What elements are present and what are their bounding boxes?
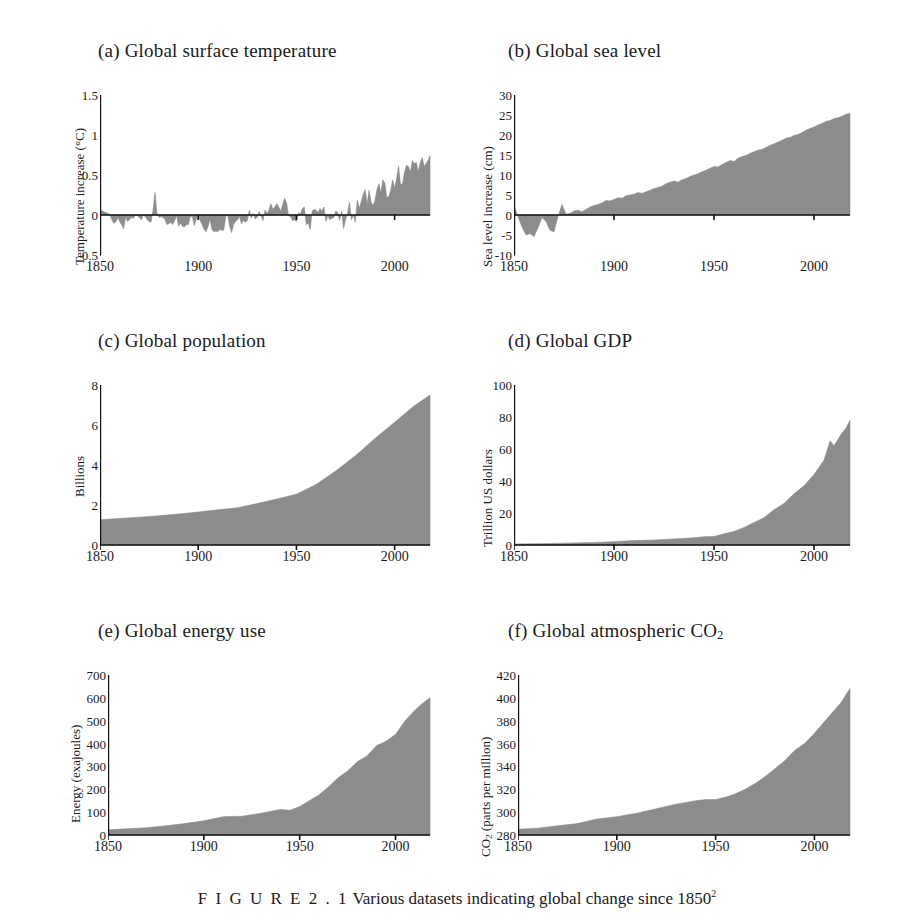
panel-f-xtick-label: 1850 — [504, 839, 532, 855]
panel-b: (b) Global sea level Sea level increase … — [470, 40, 890, 310]
panel-c-ytick-label: 6 — [92, 419, 99, 432]
panel-f-chart — [518, 675, 850, 835]
panel-f-ytick-label: 360 — [497, 737, 517, 750]
panel-b-ytick-label: 15 — [499, 149, 512, 162]
panel-f-yticks: 280300320340360380400420 — [470, 675, 516, 835]
panel-e-xtick-label: 2000 — [382, 839, 410, 855]
panel-d-ytick-label: 20 — [499, 507, 512, 520]
panel-a-xtick-label: 1950 — [282, 259, 310, 275]
panel-b-ytick-label: 0 — [506, 209, 513, 222]
panel-f-ytick-label: 400 — [497, 691, 517, 704]
panel-e-ytick-label: 300 — [87, 760, 107, 773]
figure-container: (a) Global surface temperature Temperatu… — [0, 0, 914, 923]
panel-f-area-svg — [518, 675, 852, 849]
panel-f-title-text: (f) Global atmospheric CO — [508, 620, 717, 641]
panel-a-xtick-label: 2000 — [381, 259, 409, 275]
panel-b-ytick-label: 5 — [506, 189, 513, 202]
panel-b-plot-area: Sea level increase (cm) -10-505101520253… — [470, 95, 890, 310]
panel-d-ytick-label: 100 — [493, 379, 513, 392]
panel-f-ytick-label: 420 — [497, 669, 517, 682]
panel-b-ytick-label: 30 — [499, 89, 512, 102]
panel-c-xtick-label: 2000 — [381, 549, 409, 565]
panel-a: (a) Global surface temperature Temperatu… — [60, 40, 460, 310]
panel-b-xtick-label: 1900 — [600, 259, 628, 275]
panel-b-chart — [514, 95, 850, 255]
figure-caption-text: Various datasets indicating global chang… — [352, 889, 711, 908]
panel-b-area-svg — [514, 95, 852, 269]
panel-c-yticks: 02468 — [60, 385, 98, 545]
panel-b-ytick-label: 20 — [499, 129, 512, 142]
panel-f-ylabel-subscript: 2 — [484, 834, 494, 839]
panel-d-area-svg — [514, 385, 852, 559]
panel-b-ytick-label: 25 — [499, 109, 512, 122]
panel-e-ytick-label: 600 — [87, 691, 107, 704]
panel-f-xtick-label: 2000 — [800, 839, 828, 855]
panel-f-title-subscript: 2 — [717, 628, 723, 642]
panel-a-plot-area: Temperature increase (°C) -0.500.511.5 1… — [60, 95, 460, 310]
panel-b-ytick-label: -5 — [501, 229, 512, 242]
panel-e-yticks: 0100200300400500600700 — [60, 675, 106, 835]
panel-f-xtick-label: 1950 — [702, 839, 730, 855]
panel-a-xtick-label: 1850 — [86, 259, 114, 275]
panel-e-ytick-label: 200 — [87, 783, 107, 796]
panel-d: (d) Global GDP Trillion US dollars 02040… — [470, 330, 890, 600]
panel-e-ytick-label: 700 — [87, 669, 107, 682]
panel-d-xtick-label: 1950 — [700, 549, 728, 565]
panel-d-xtick-label: 1850 — [500, 549, 528, 565]
panel-d-chart — [514, 385, 850, 545]
panel-c-title: (c) Global population — [98, 330, 266, 352]
panel-a-ytick-label: 1.5 — [82, 89, 98, 102]
panel-d-plot-area: Trillion US dollars 020406080100 1850190… — [470, 385, 890, 600]
panel-a-ytick-label: 0 — [92, 209, 99, 222]
panel-a-ytick-label: 1 — [92, 129, 99, 142]
panel-c-area-svg — [100, 385, 432, 559]
panel-d-ytick-label: 60 — [499, 443, 512, 456]
panel-b-yticks: -10-5051015202530 — [470, 95, 512, 255]
panel-e-xtick-label: 1900 — [190, 839, 218, 855]
panel-e-ytick-label: 100 — [87, 806, 107, 819]
panel-a-yticks: -0.500.511.5 — [60, 95, 98, 255]
panel-e-ytick-label: 500 — [87, 714, 107, 727]
panel-e-area-svg — [108, 675, 432, 849]
panel-a-title: (a) Global surface temperature — [98, 40, 337, 62]
panel-a-ytick-label: 0.5 — [82, 169, 98, 182]
panel-f-ytick-label: 300 — [497, 806, 517, 819]
panel-f: (f) Global atmospheric CO2 CO2 (parts pe… — [470, 620, 890, 890]
panel-b-title: (b) Global sea level — [508, 40, 661, 62]
panel-b-xtick-label: 1950 — [700, 259, 728, 275]
panel-c: (c) Global population Billions 02468 185… — [60, 330, 460, 600]
panel-d-xtick-label: 2000 — [800, 549, 828, 565]
panel-d-title: (d) Global GDP — [508, 330, 632, 352]
panel-d-ytick-label: 80 — [499, 411, 512, 424]
panel-c-chart — [100, 385, 430, 545]
panel-c-xtick-label: 1900 — [184, 549, 212, 565]
panel-e-xtick-label: 1850 — [94, 839, 122, 855]
panel-d-xtick-label: 1900 — [600, 549, 628, 565]
panel-f-plot-area: CO2 (parts per million) 2803003203403603… — [470, 675, 890, 890]
panel-d-yticks: 020406080100 — [470, 385, 512, 545]
panel-f-title: (f) Global atmospheric CO2 — [508, 620, 723, 643]
panel-f-ytick-label: 340 — [497, 760, 517, 773]
panel-c-xtick-label: 1850 — [86, 549, 114, 565]
panel-f-ytick-label: 320 — [497, 783, 517, 796]
panel-d-ytick-label: 40 — [499, 475, 512, 488]
panel-a-xtick-label: 1900 — [184, 259, 212, 275]
panel-b-xtick-label: 2000 — [800, 259, 828, 275]
panel-a-chart — [100, 95, 430, 255]
panel-e-xtick-label: 1950 — [286, 839, 314, 855]
panel-c-plot-area: Billions 02468 1850190019502000 — [60, 385, 460, 600]
panel-c-ytick-label: 8 — [92, 379, 99, 392]
panel-c-xtick-label: 1950 — [282, 549, 310, 565]
panel-b-xtick-label: 1850 — [500, 259, 528, 275]
figure-number: F I G U R E 2 . 1 — [198, 889, 349, 908]
panel-f-xtick-label: 1900 — [603, 839, 631, 855]
panel-c-ytick-label: 4 — [92, 459, 99, 472]
figure-caption-superscript: 2 — [711, 888, 716, 899]
panel-f-ylabel-prefix: CO — [478, 839, 493, 857]
panel-b-ytick-label: 10 — [499, 169, 512, 182]
panel-e-title: (e) Global energy use — [98, 620, 266, 642]
panel-c-ytick-label: 2 — [92, 499, 99, 512]
panel-e-ytick-label: 400 — [87, 737, 107, 750]
panel-e: (e) Global energy use Energy (exajoules)… — [60, 620, 460, 890]
panel-e-plot-area: Energy (exajoules) 010020030040050060070… — [60, 675, 460, 890]
